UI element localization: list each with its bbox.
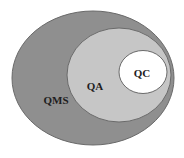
nested-venn-diagram: QMS QA QC bbox=[0, 0, 184, 158]
qc-set: QC bbox=[119, 51, 167, 94]
qms-label: QMS bbox=[43, 94, 68, 106]
qc-label: QC bbox=[134, 67, 151, 79]
qa-label: QA bbox=[87, 80, 104, 92]
